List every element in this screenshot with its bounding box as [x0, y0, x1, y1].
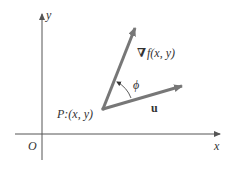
gradient-label: f(x, y) [147, 46, 175, 60]
gradient-diagram: y x O P:(x, y) ∇ f(x, y) u ϕ [0, 0, 233, 172]
point-p [101, 107, 105, 111]
origin-label: O [28, 139, 37, 153]
angle-label: ϕ [133, 78, 139, 92]
angle-arc [117, 82, 131, 98]
u-label: u [151, 101, 158, 115]
y-axis-label: y [45, 8, 52, 22]
x-axis-label: x [213, 139, 220, 153]
nabla-symbol: ∇ [137, 46, 146, 60]
u-vector [103, 86, 182, 109]
point-label: P:(x, y) [56, 107, 93, 121]
